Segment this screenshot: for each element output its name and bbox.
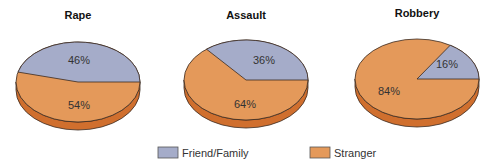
friend-family-percent-label: 46% <box>68 54 90 66</box>
chart-title: Robbery <box>395 7 441 19</box>
chart-title: Rape <box>65 9 92 21</box>
pie-chart-robbery: Robbery16%84% <box>355 7 479 127</box>
pie-chart-assault: Assault36%64% <box>184 9 308 128</box>
legend-swatch-friend-family <box>158 147 178 158</box>
friend-family-percent-label: 16% <box>436 58 458 70</box>
legend-label-stranger: Stranger <box>334 147 377 159</box>
legend: Friend/FamilyStranger <box>158 147 377 159</box>
pie-chart-rape: Rape46%54% <box>16 9 140 130</box>
stranger-percent-label: 64% <box>234 98 256 110</box>
legend-swatch-stranger <box>310 147 330 158</box>
chart-title: Assault <box>226 9 266 21</box>
pie-charts-figure: Rape46%54%Assault36%64%Robbery16%84%Frie… <box>0 0 492 168</box>
stranger-percent-label: 54% <box>68 99 90 111</box>
legend-label-friend-family: Friend/Family <box>182 147 249 159</box>
stranger-percent-label: 84% <box>378 85 400 97</box>
friend-family-percent-label: 36% <box>253 54 275 66</box>
